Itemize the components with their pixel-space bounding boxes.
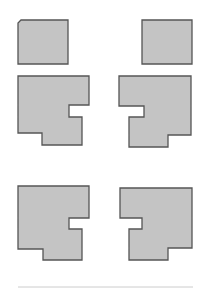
top-right-square [142, 20, 192, 64]
bottom-right-l-shape [120, 188, 192, 260]
bottom-left-l-shape [18, 186, 89, 260]
middle-right-l-shape [119, 76, 191, 147]
diagram-canvas [0, 0, 207, 289]
top-left-square [18, 20, 68, 64]
middle-left-l-shape [18, 76, 89, 145]
